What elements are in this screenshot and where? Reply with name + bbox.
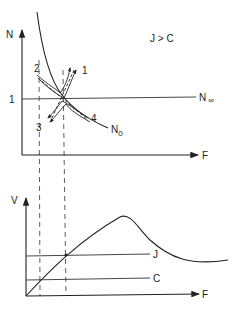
phase-diagram: N F J > C 1 N∞ N0 2 1 3 4 V F bbox=[0, 0, 234, 309]
j-line bbox=[26, 254, 150, 256]
trajectory-label-4: 4 bbox=[91, 113, 97, 124]
f-axis-label-top: F bbox=[202, 150, 208, 161]
n-infinity-label: N∞ bbox=[199, 92, 214, 105]
c-label: C bbox=[153, 273, 160, 284]
v-curve bbox=[26, 216, 228, 296]
bottom-panel: V F J C bbox=[11, 195, 228, 300]
f-axis-bottom bbox=[26, 294, 199, 296]
dashed-vertical-left bbox=[39, 60, 40, 296]
saddle-trajectories bbox=[37, 68, 90, 122]
condition-label: J > C bbox=[150, 33, 174, 44]
n-infinity-line bbox=[22, 97, 196, 99]
f-axis-label-bottom: F bbox=[202, 289, 208, 300]
j-label: J bbox=[153, 249, 158, 260]
intersection-point bbox=[65, 254, 68, 257]
top-panel: N F J > C 1 N∞ N0 2 1 3 4 bbox=[6, 12, 214, 296]
trajectory-label-2: 2 bbox=[34, 63, 40, 74]
y-tick-1: 1 bbox=[9, 94, 15, 105]
n-axis-label: N bbox=[6, 29, 13, 40]
trajectory-label-1: 1 bbox=[82, 65, 88, 76]
v-axis-label: V bbox=[11, 195, 18, 206]
c-line bbox=[26, 278, 150, 280]
trajectory-label-3: 3 bbox=[36, 122, 42, 133]
n0-label: N0 bbox=[111, 124, 123, 138]
